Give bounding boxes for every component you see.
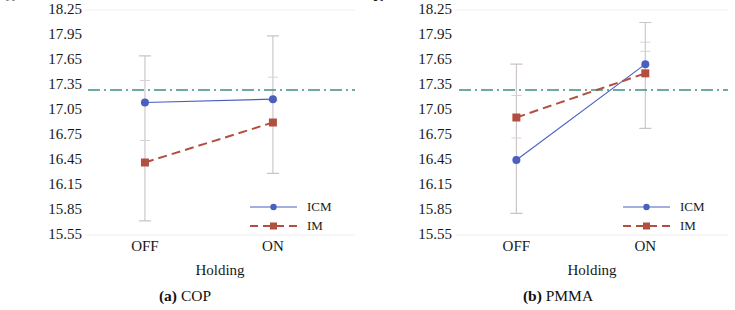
y-tick-label: 17.95: [48, 27, 82, 42]
x-tick-on: ON: [228, 238, 318, 254]
error-bar: [267, 36, 279, 174]
y-tick-label: 15.85: [418, 202, 452, 217]
series-line-im: [516, 73, 645, 117]
panel-caption-text: COP: [181, 287, 211, 304]
legend-label-icm: ICM: [307, 200, 332, 214]
panel-pmma: Step Height PMMA / µm 18.2517.9517.6517.…: [368, 0, 735, 310]
x-axis-label: Holding: [85, 262, 355, 279]
data-point-im: [512, 114, 520, 122]
y-tick-label: 16.15: [418, 177, 452, 192]
y-tick-label: 18.25: [418, 2, 452, 17]
y-tick-label: 15.55: [48, 227, 82, 242]
data-point-icm: [269, 95, 277, 103]
x-tick-off: OFF: [100, 238, 190, 254]
data-point-icm: [141, 99, 149, 107]
panel-caption-number: (a): [159, 287, 177, 304]
series-line-im: [145, 123, 273, 163]
data-point-icm: [512, 156, 520, 164]
y-tick-label: 17.65: [48, 52, 82, 67]
y-axis-tick-labels: 18.2517.9517.6517.3517.0516.7516.4516.15…: [24, 0, 82, 250]
y-tick-label: 17.35: [418, 77, 452, 92]
y-tick-label: 16.75: [48, 127, 82, 142]
y-tick-label: 17.65: [418, 52, 452, 67]
x-tick-on: ON: [600, 238, 690, 254]
y-axis-tick-labels: 18.2517.9517.6517.3517.0516.7516.4516.15…: [394, 0, 452, 250]
legend-label-im: IM: [307, 219, 323, 233]
figure-interaction-plots: Step Height COP / µm 18.2517.9517.6517.3…: [0, 0, 735, 310]
data-point-im: [269, 119, 277, 127]
panel-caption: (b) PMMA: [408, 287, 708, 305]
y-tick-label: 17.35: [48, 77, 82, 92]
legend-marker-im: [270, 223, 277, 230]
data-point-im: [141, 159, 149, 167]
y-tick-label: 18.25: [48, 2, 82, 17]
error-bar: [139, 56, 151, 221]
y-tick-label: 16.15: [48, 177, 82, 192]
data-point-im: [641, 69, 649, 77]
y-tick-label: 15.55: [418, 227, 452, 242]
y-tick-label: 16.75: [418, 127, 452, 142]
y-tick-label: 15.85: [48, 202, 82, 217]
error-bar: [510, 64, 522, 213]
y-axis-label: Step Height COP / µm: [2, 0, 24, 40]
legend-marker-im: [643, 223, 650, 230]
series-line-icm: [516, 64, 645, 160]
legend-label-im: IM: [680, 219, 696, 233]
y-tick-label: 16.45: [418, 152, 452, 167]
data-point-icm: [641, 60, 649, 68]
panel-caption-number: (b): [523, 287, 542, 304]
x-axis-label: Holding: [456, 262, 728, 279]
panel-caption-text: PMMA: [546, 287, 593, 304]
legend-marker-icm: [270, 204, 276, 210]
y-tick-label: 16.45: [48, 152, 82, 167]
y-axis-label: Step Height PMMA / µm: [370, 0, 392, 40]
series-line-icm: [145, 99, 273, 102]
legend-label-icm: ICM: [680, 200, 705, 214]
panel-caption: (a) COP: [40, 287, 330, 305]
x-tick-off: OFF: [471, 238, 561, 254]
legend-marker-icm: [643, 204, 649, 210]
panel-cop: Step Height COP / µm 18.2517.9517.6517.3…: [0, 0, 367, 310]
y-tick-label: 17.05: [48, 102, 82, 117]
y-tick-label: 17.05: [418, 102, 452, 117]
y-tick-label: 17.95: [418, 27, 452, 42]
